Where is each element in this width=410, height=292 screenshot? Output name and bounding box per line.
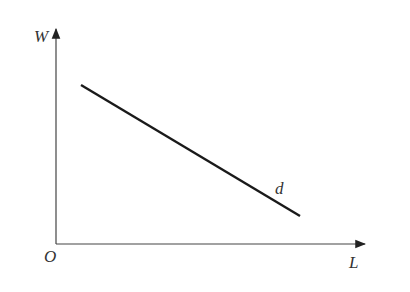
x-axis-label: L — [348, 253, 358, 272]
chart-canvas: W O L d — [0, 0, 410, 292]
series-label-d: d — [275, 179, 284, 198]
line-d — [81, 85, 300, 216]
origin-label: O — [44, 247, 56, 266]
y-axis-label: W — [34, 27, 50, 46]
